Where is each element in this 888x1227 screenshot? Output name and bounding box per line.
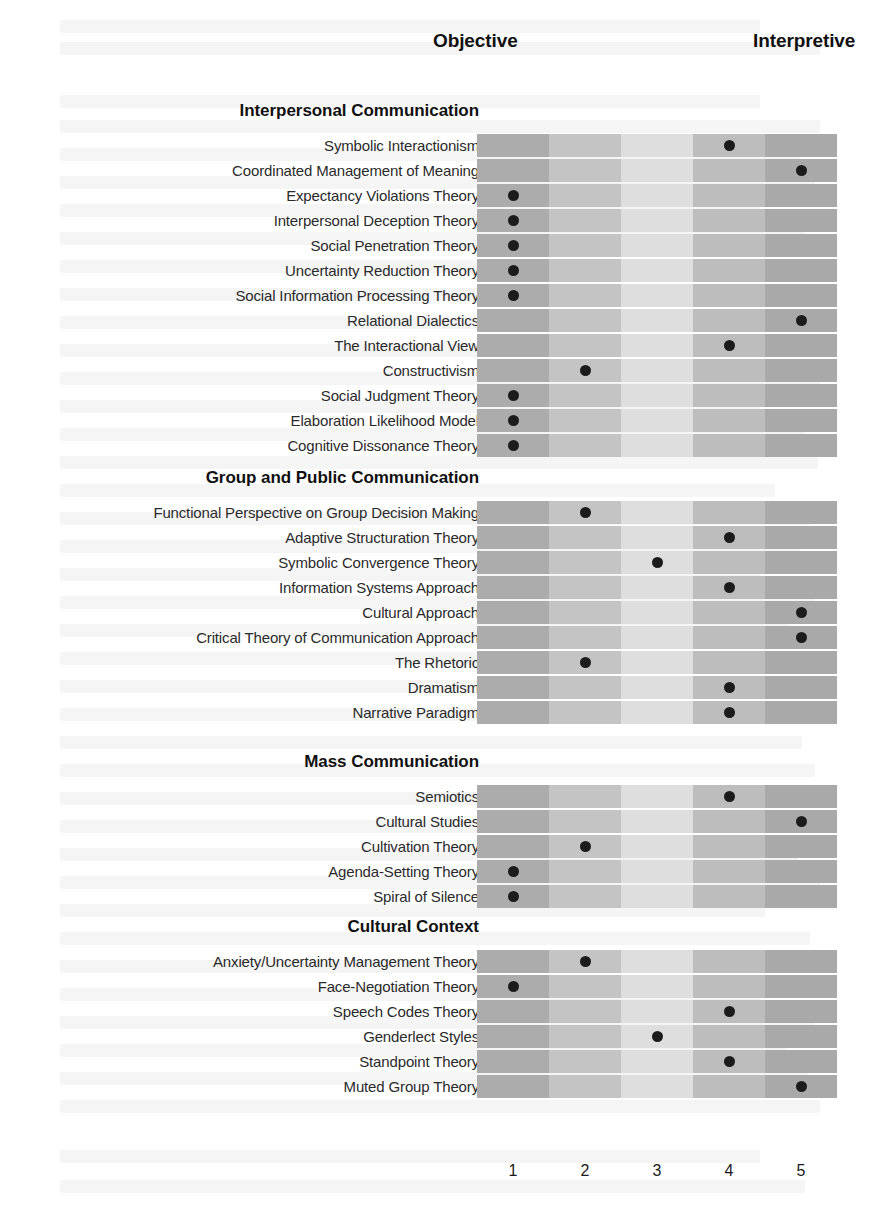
scale-cell-3[interactable] — [621, 1050, 693, 1073]
table-row[interactable]: Social Information Processing Theory — [0, 284, 888, 307]
scale-cell-4[interactable] — [693, 885, 765, 908]
scale-cell-3[interactable] — [621, 835, 693, 858]
scale-cell-3[interactable] — [621, 785, 693, 808]
scale-cell-3[interactable] — [621, 701, 693, 724]
scale-cell-5[interactable] — [765, 860, 837, 883]
table-row[interactable]: Dramatism — [0, 676, 888, 699]
scale-cell-3[interactable] — [621, 651, 693, 674]
scale-cell-4[interactable] — [693, 676, 765, 699]
scale-cell-2[interactable] — [549, 835, 621, 858]
table-row[interactable]: Muted Group Theory — [0, 1075, 888, 1098]
table-row[interactable]: Elaboration Likelihood Model — [0, 409, 888, 432]
scale-cell-2[interactable] — [549, 1050, 621, 1073]
scale-cell-4[interactable] — [693, 309, 765, 332]
scale-cell-2[interactable] — [549, 701, 621, 724]
scale-cell-4[interactable] — [693, 209, 765, 232]
table-row[interactable]: Cognitive Dissonance Theory — [0, 434, 888, 457]
scale-cell-1[interactable] — [477, 626, 549, 649]
scale-cell-5[interactable] — [765, 259, 837, 282]
scale-cell-4[interactable] — [693, 1050, 765, 1073]
scale-cell-2[interactable] — [549, 134, 621, 157]
scale-cell-5[interactable] — [765, 334, 837, 357]
scale-cell-4[interactable] — [693, 359, 765, 382]
scale-cell-3[interactable] — [621, 259, 693, 282]
scale-cell-5[interactable] — [765, 526, 837, 549]
table-row[interactable]: Speech Codes Theory — [0, 1000, 888, 1023]
scale-cell-2[interactable] — [549, 1075, 621, 1098]
scale-cell-4[interactable] — [693, 234, 765, 257]
scale-cell-1[interactable] — [477, 975, 549, 998]
scale-cell-1[interactable] — [477, 835, 549, 858]
scale-cell-5[interactable] — [765, 1000, 837, 1023]
scale-cell-4[interactable] — [693, 601, 765, 624]
scale-cell-3[interactable] — [621, 209, 693, 232]
scale-cell-2[interactable] — [549, 626, 621, 649]
scale-cell-2[interactable] — [549, 384, 621, 407]
scale-cell-5[interactable] — [765, 885, 837, 908]
scale-cell-3[interactable] — [621, 284, 693, 307]
scale-cell-4[interactable] — [693, 134, 765, 157]
scale-cell-1[interactable] — [477, 1050, 549, 1073]
scale-cell-4[interactable] — [693, 810, 765, 833]
scale-cell-5[interactable] — [765, 701, 837, 724]
scale-cell-1[interactable] — [477, 551, 549, 574]
scale-cell-5[interactable] — [765, 1025, 837, 1048]
scale-cell-3[interactable] — [621, 885, 693, 908]
scale-cell-3[interactable] — [621, 409, 693, 432]
table-row[interactable]: Semiotics — [0, 785, 888, 808]
table-row[interactable]: The Interactional View — [0, 334, 888, 357]
scale-cell-4[interactable] — [693, 1025, 765, 1048]
scale-cell-3[interactable] — [621, 526, 693, 549]
scale-cell-2[interactable] — [549, 409, 621, 432]
table-row[interactable]: Relational Dialectics — [0, 309, 888, 332]
scale-cell-2[interactable] — [549, 334, 621, 357]
table-row[interactable]: Spiral of Silence — [0, 885, 888, 908]
scale-cell-5[interactable] — [765, 626, 837, 649]
scale-cell-1[interactable] — [477, 234, 549, 257]
scale-cell-5[interactable] — [765, 159, 837, 182]
table-row[interactable]: Narrative Paradigm — [0, 701, 888, 724]
scale-cell-5[interactable] — [765, 785, 837, 808]
scale-cell-3[interactable] — [621, 334, 693, 357]
scale-cell-5[interactable] — [765, 234, 837, 257]
scale-cell-2[interactable] — [549, 526, 621, 549]
scale-cell-1[interactable] — [477, 601, 549, 624]
scale-cell-2[interactable] — [549, 676, 621, 699]
scale-cell-2[interactable] — [549, 234, 621, 257]
scale-cell-2[interactable] — [549, 359, 621, 382]
scale-cell-2[interactable] — [549, 501, 621, 524]
scale-cell-2[interactable] — [549, 785, 621, 808]
scale-cell-1[interactable] — [477, 1000, 549, 1023]
scale-cell-3[interactable] — [621, 184, 693, 207]
scale-cell-1[interactable] — [477, 134, 549, 157]
table-row[interactable]: Social Judgment Theory — [0, 384, 888, 407]
scale-cell-4[interactable] — [693, 860, 765, 883]
scale-cell-4[interactable] — [693, 576, 765, 599]
scale-cell-1[interactable] — [477, 1075, 549, 1098]
scale-cell-5[interactable] — [765, 950, 837, 973]
scale-cell-1[interactable] — [477, 434, 549, 457]
table-row[interactable]: Symbolic Convergence Theory — [0, 551, 888, 574]
table-row[interactable]: Interpersonal Deception Theory — [0, 209, 888, 232]
scale-cell-3[interactable] — [621, 134, 693, 157]
scale-cell-4[interactable] — [693, 701, 765, 724]
scale-cell-3[interactable] — [621, 551, 693, 574]
scale-cell-2[interactable] — [549, 975, 621, 998]
scale-cell-1[interactable] — [477, 651, 549, 674]
table-row[interactable]: Functional Perspective on Group Decision… — [0, 501, 888, 524]
scale-cell-3[interactable] — [621, 626, 693, 649]
scale-cell-2[interactable] — [549, 309, 621, 332]
table-row[interactable]: The Rhetoric — [0, 651, 888, 674]
table-row[interactable]: Coordinated Management of Meaning — [0, 159, 888, 182]
scale-cell-1[interactable] — [477, 676, 549, 699]
scale-cell-2[interactable] — [549, 601, 621, 624]
scale-cell-4[interactable] — [693, 785, 765, 808]
scale-cell-5[interactable] — [765, 576, 837, 599]
scale-cell-1[interactable] — [477, 810, 549, 833]
scale-cell-3[interactable] — [621, 1075, 693, 1098]
scale-cell-3[interactable] — [621, 359, 693, 382]
scale-cell-4[interactable] — [693, 284, 765, 307]
table-row[interactable]: Cultural Approach — [0, 601, 888, 624]
scale-cell-4[interactable] — [693, 334, 765, 357]
table-row[interactable]: Constructivism — [0, 359, 888, 382]
